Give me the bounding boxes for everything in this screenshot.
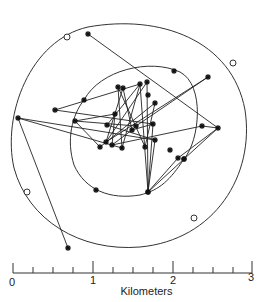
star-marker: [115, 84, 121, 90]
star-marker: [81, 97, 87, 103]
scale-tick-0: 0: [9, 276, 15, 288]
star-marker: [112, 111, 118, 117]
star-marker: [150, 121, 156, 127]
scale-title: Kilometers: [18, 285, 257, 297]
star-marker: [104, 122, 110, 128]
star-marker: [181, 156, 187, 162]
star-marker: [119, 145, 125, 151]
star-marker: [152, 137, 158, 143]
home-range-diagram: [0, 0, 257, 302]
star-marker: [175, 155, 181, 161]
star-marker: [65, 245, 71, 251]
star-marker: [152, 100, 158, 106]
track-lines: [18, 34, 218, 248]
star-marker: [109, 142, 115, 148]
scale-bar: [13, 261, 252, 273]
star-marker: [205, 74, 211, 80]
star-marker: [167, 147, 173, 153]
star-marker: [85, 31, 91, 37]
star-marker: [103, 139, 109, 145]
star-marker: [199, 123, 205, 129]
star-marker: [93, 187, 99, 193]
star-marker: [52, 107, 58, 113]
star-marker: [97, 144, 103, 150]
scale-tick-3: 3: [248, 271, 254, 283]
star-marker: [145, 92, 151, 98]
star-marker: [145, 189, 151, 195]
star-marker: [171, 68, 177, 74]
star-marker: [15, 115, 21, 121]
star-marker: [142, 144, 148, 150]
star-marker: [72, 118, 78, 124]
star-marker: [215, 125, 221, 131]
star-marker: [137, 81, 143, 87]
star-marker: [133, 123, 139, 129]
star-marker: [120, 85, 126, 91]
star-marker: [144, 79, 150, 85]
